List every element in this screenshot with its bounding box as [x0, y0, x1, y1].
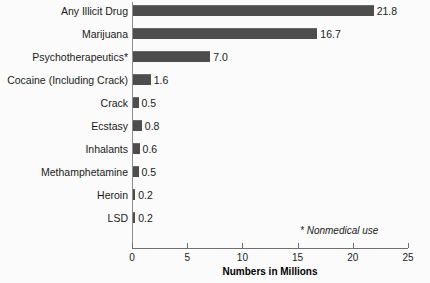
bar-value-label: 1.6 [154, 72, 169, 88]
bar-row: LSD0.2 [0, 210, 430, 226]
x-tick-label: 5 [184, 252, 190, 263]
bar [133, 143, 140, 154]
bar-row: Cocaine (Including Crack)1.6 [0, 72, 430, 88]
category-label: Heroin [97, 187, 128, 203]
x-tick [132, 243, 133, 248]
x-tick-label: 25 [402, 252, 413, 263]
bar [133, 74, 151, 85]
category-label: Crack [101, 95, 128, 111]
bar-value-label: 0.5 [142, 164, 157, 180]
bar-row: Crack0.5 [0, 95, 430, 111]
x-tick-label: 15 [292, 252, 303, 263]
bar-row: Ecstasy0.8 [0, 118, 430, 134]
bar [133, 5, 374, 16]
bar-row: Inhalants0.6 [0, 141, 430, 157]
bar-value-label: 7.0 [213, 49, 228, 65]
bar-chart: 0510152025 Any Illicit Drug21.8Marijuana… [0, 0, 430, 283]
bar-value-label: 0.2 [138, 187, 153, 203]
plot-area: 0510152025 Any Illicit Drug21.8Marijuana… [0, 0, 430, 283]
x-tick [242, 243, 243, 248]
x-tick [187, 243, 188, 248]
x-tick [298, 243, 299, 248]
x-tick [353, 243, 354, 248]
bar-row: Marijuana16.7 [0, 26, 430, 42]
x-tick-label: 0 [129, 252, 135, 263]
bar-value-label: 0.6 [143, 141, 158, 157]
footnote-nonmedical-use: * Nonmedical use [300, 225, 378, 236]
bar [133, 97, 139, 108]
category-label: Any Illicit Drug [61, 3, 128, 19]
x-tick [408, 243, 409, 248]
x-axis-title: Numbers in Millions [132, 266, 408, 277]
x-tick-label: 10 [237, 252, 248, 263]
category-label: Ecstasy [91, 118, 128, 134]
bar-row: Any Illicit Drug21.8 [0, 3, 430, 19]
bar [133, 28, 317, 39]
bar-value-label: 0.2 [138, 210, 153, 226]
category-label: Cocaine (Including Crack) [7, 72, 128, 88]
category-label: Marijuana [82, 26, 128, 42]
bar-value-label: 0.8 [145, 118, 160, 134]
bar [133, 51, 210, 62]
category-label: Methamphetamine [41, 164, 128, 180]
x-tick-label: 20 [347, 252, 358, 263]
bar [133, 120, 142, 131]
bar-value-label: 21.8 [377, 3, 397, 19]
bar-value-label: 16.7 [320, 26, 340, 42]
bar-row: Methamphetamine0.5 [0, 164, 430, 180]
bar-row: Heroin0.2 [0, 187, 430, 203]
category-label: Inhalants [85, 141, 128, 157]
bar-row: Psychotherapeutics*7.0 [0, 49, 430, 65]
bar [133, 189, 135, 200]
bar-value-label: 0.5 [142, 95, 157, 111]
bar [133, 212, 135, 223]
bar [133, 166, 139, 177]
category-label: LSD [108, 210, 128, 226]
x-axis-line [132, 248, 408, 249]
category-label: Psychotherapeutics* [32, 49, 128, 65]
